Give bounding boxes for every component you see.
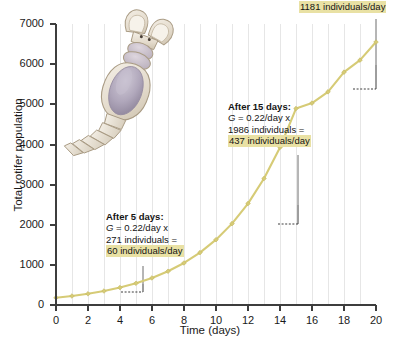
y-axis-title: Total rotifer population — [12, 90, 24, 220]
annotation-after-15-days: After 15 days: G = 0.22/day x 1986 indiv… — [228, 101, 311, 147]
annotation-after-5-days: After 5 days: G = 0.22/day x 271 individ… — [106, 211, 184, 257]
annotation-15days-result: 437 individuals/day — [228, 135, 311, 146]
annotation-5days-population: 271 individuals = — [106, 234, 184, 245]
annotation-15days-heading: After 15 days: — [228, 101, 311, 112]
annotation-5days-result: 60 individuals/day — [106, 245, 184, 256]
y-tick-7000: 7000 — [6, 18, 44, 29]
x-axis-title: Time (days) — [0, 324, 420, 336]
rotifer-exponential-growth-figure: 7000 6000 5000 4000 3000 2000 1000 0 0 2… — [0, 0, 420, 342]
y-tick-2000: 2000 — [6, 219, 44, 230]
annotation-5days-heading: After 5 days: — [106, 211, 184, 222]
annotation-5days-formula: G = 0.22/day x — [106, 222, 184, 233]
annotation-15days-rate: = 0.22/day x — [235, 112, 290, 123]
y-tick-1000: 1000 — [6, 259, 44, 270]
y-tick-0: 0 — [6, 299, 44, 310]
annotation-15days-formula: G = 0.22/day x — [228, 112, 311, 123]
annotation-5days-rate: = 0.22/day x — [113, 222, 168, 233]
annotation-20days-result: 1181 individuals/day — [299, 1, 386, 12]
y-tick-6000: 6000 — [6, 58, 44, 69]
chart-canvas — [0, 0, 420, 342]
annotation-after-20-days: 5367 individuals = 1181 individuals/day — [299, 0, 386, 13]
annotation-15days-population: 1986 individuals = — [228, 124, 311, 135]
